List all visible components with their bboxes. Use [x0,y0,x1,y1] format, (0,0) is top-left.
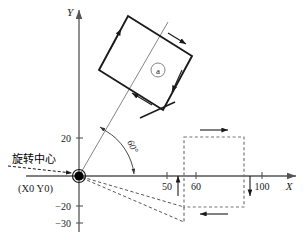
y-axis-label: Y [67,6,75,18]
unrotated-workpiece-outline [184,137,244,207]
rotation-center-marker [73,170,86,183]
rotated-workpiece-outline [99,16,192,110]
rotated-workpiece-group: a [99,16,192,110]
angle-arc-group: 60° [100,127,140,174]
y-tick-label-neg30: −30 [55,218,71,229]
rotated-part-centerline-lower [140,102,175,118]
x-tick-label-60: 60 [191,181,201,192]
diagram-canvas: X Y 50 60 100 20 −20 −30 [0,0,308,240]
rotation-center-annotation-group: 旋转中心 (X0 Y0) [8,152,72,195]
rotation-center-dot [74,171,83,180]
annotation-leader-line [8,166,72,173]
x-tick-label-100: 100 [255,181,270,192]
rotation-diagram: X Y 50 60 100 20 −20 −30 [0,0,308,240]
rotated-left-edge-arrow [110,29,121,50]
angle-arc-start-arrow [100,127,106,131]
angle-arc-path [106,131,134,174]
rotated-right-edge-arrow [172,70,182,92]
axes-group: X Y [26,6,296,232]
x-axis-label: X [285,180,294,192]
origin-coordinate-label: (X0 Y0) [18,183,53,195]
x-tick-label-50: 50 [162,181,172,192]
rotated-bottom-edge-arrow [132,93,152,105]
y-tick-label-20: 20 [61,133,71,144]
rotation-ray-line [79,22,168,176]
unrotated-workpiece-group [178,130,250,214]
callout-label: a [156,66,160,76]
y-tick-label-neg20: −20 [55,201,71,212]
rotation-center-label: 旋转中心 [12,152,56,166]
